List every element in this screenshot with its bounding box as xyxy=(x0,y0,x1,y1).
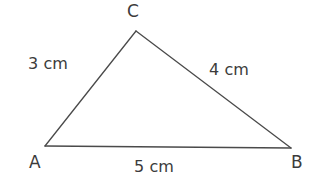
triangle-side-cb xyxy=(136,31,291,148)
triangle-diagram: C A B 3 cm 4 cm 5 cm xyxy=(0,0,314,189)
side-length-label-ab: 5 cm xyxy=(134,159,174,175)
triangle-side-ac xyxy=(45,31,136,146)
vertex-label-b: B xyxy=(291,154,303,171)
triangle-side-ab xyxy=(45,146,291,148)
side-length-label-ac: 3 cm xyxy=(28,56,68,72)
vertex-label-a: A xyxy=(29,154,41,171)
vertex-label-c: C xyxy=(127,3,139,20)
side-length-label-cb: 4 cm xyxy=(209,62,249,78)
